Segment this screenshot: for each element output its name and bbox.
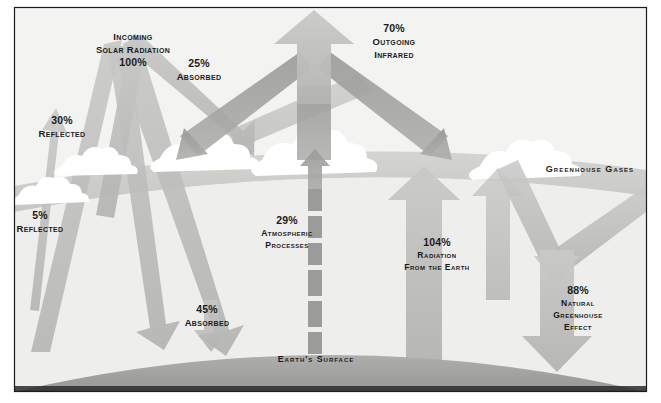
label-greenhouse-gases: Greenhouse Gases [546, 164, 634, 174]
label-earths-surface: Earth's Surface [278, 354, 355, 364]
label-reflected-5-text: Reflected [17, 223, 64, 234]
label-reflected-30-value: 30% [51, 114, 73, 126]
label-atmospheric-value: 29% [276, 214, 298, 226]
label-absorbed-25-value: 25% [188, 57, 210, 69]
label-absorbed-25-text: Absorbed [177, 71, 222, 82]
label-nge-line1: Natural [561, 298, 595, 308]
label-atmospheric-line1: Atmospheric [261, 228, 313, 238]
label-nge-value: 88% [567, 284, 589, 296]
label-outgoing-value: 70% [383, 22, 405, 34]
label-absorbed-45-value: 45% [196, 303, 218, 315]
label-incoming-line2: Solar Radiation [96, 44, 170, 55]
label-reflected-5-value: 5% [32, 209, 48, 221]
label-radiation-line2: From the Earth [404, 262, 469, 272]
diagram-stage: Incoming Solar Radiation 100% 25% Absorb… [0, 0, 661, 403]
label-incoming-line1: Incoming [113, 31, 152, 42]
label-nge-line3: Effect [564, 322, 592, 332]
diagram-canvas: Incoming Solar Radiation 100% 25% Absorb… [0, 0, 661, 403]
label-outgoing-line1: Outgoing [373, 36, 416, 47]
label-reflected-30-text: Reflected [39, 128, 86, 139]
label-incoming-value: 100% [119, 56, 147, 68]
label-absorbed-45-text: Absorbed [185, 317, 230, 328]
label-nge-line2: Greenhouse [553, 310, 603, 320]
label-outgoing-line2: Infrared [374, 49, 414, 60]
label-radiation-line1: Radiation [417, 250, 456, 260]
label-atmospheric-line2: Processes [265, 240, 309, 250]
label-radiation-value: 104% [423, 236, 451, 248]
greenhouse-effect-diagram: Incoming Solar Radiation 100% 25% Absorb… [0, 0, 661, 403]
illustration-body: Incoming Solar Radiation 100% 25% Absorb… [10, 7, 647, 392]
